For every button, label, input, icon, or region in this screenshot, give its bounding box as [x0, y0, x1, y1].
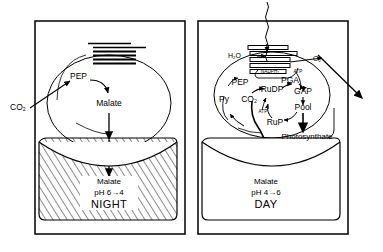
day-vacuole-malate-label: Malate [253, 178, 279, 186]
day-vacuole-ph-label: pH 4→6 [250, 189, 281, 197]
day-phase-label: DAY [253, 199, 278, 210]
day-co2-internal-label: CO2 [241, 95, 257, 104]
day-pga-label: PGA [281, 76, 299, 85]
night-cell-inner-curve-2 [76, 123, 109, 134]
night-vacuole-ph-label: pH 6→4 [93, 189, 124, 197]
night-pep-label: PEP [70, 72, 87, 81]
night-phase-label: NIGHT [90, 199, 128, 210]
nadph2-label: NADPH2 [261, 70, 279, 75]
figure-canvas: CO2 PEP Malate Malate pH 6→4 NIGHT H2O O… [0, 0, 383, 252]
night-pep-to-malate-arrow [90, 80, 108, 93]
day-h2o-label: H2O [228, 52, 241, 60]
malate-to-py-arrow [230, 114, 244, 126]
diagram-vector-layer [0, 0, 383, 252]
night-vacuole-malate-label: Malate [96, 178, 122, 186]
day-rup-label: RuP [267, 118, 284, 127]
day-pool-label: Pool [294, 103, 311, 112]
day-pep-label: PEP [231, 78, 248, 87]
night-malate-label: Malate [96, 99, 122, 108]
pool-to-rup-arrow [284, 112, 297, 120]
day-o2-label: O2 [313, 55, 321, 63]
day-photosynthate-label: Photosynthate [281, 133, 332, 141]
rup-to-rudp-arrow [268, 104, 273, 118]
night-co2-to-pep-arrow [30, 81, 70, 108]
day-py-label: Py [219, 95, 229, 104]
atp-light-label: ATP [294, 70, 303, 75]
day-rudp-label: RuDP [261, 85, 284, 94]
night-co2-label: CO2 [10, 103, 26, 112]
day-gap-label: GAP [294, 87, 312, 96]
atp-calvin-label: ATP [259, 110, 268, 115]
